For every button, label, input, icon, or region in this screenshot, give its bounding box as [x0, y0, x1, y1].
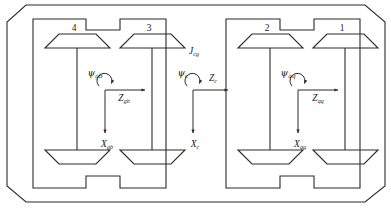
wheelset-1-lower-trapezoid [313, 150, 378, 164]
front-bogie-x-label: Xqq [293, 139, 306, 150]
wheelset-4-lower-trapezoid [45, 150, 110, 164]
rear-bogie-yaw-sub: gb [95, 72, 103, 80]
carbody-yaw-sub: c [185, 72, 189, 79]
rear-bogie-x-sub: gb [107, 144, 113, 150]
wheelset-2-lower-group [238, 150, 303, 164]
carbody-x-label: Xc [190, 139, 200, 150]
wheelset-3-lower-group [120, 150, 185, 164]
schematic-svg: 4 3 2 1 ψgb Zgb Xgb ψc Zc Xc ψqq Zqq [0, 0, 391, 208]
wheelset-4-lower-group [45, 150, 110, 164]
wheelset-2-group [238, 34, 303, 150]
wheelset-2-lower-trapezoid [238, 150, 303, 164]
front-bogie-z-sub: qq [318, 98, 324, 104]
carbody-z-label: Zc [209, 73, 217, 84]
wheelset-3-lower-trapezoid [120, 150, 185, 164]
wheelset-3-label: 3 [147, 23, 152, 33]
carbody-x-sub: c [197, 144, 200, 150]
wheelset-4-group [45, 34, 110, 150]
rear-bogie-outline [33, 19, 166, 188]
wheelset-1-group [313, 34, 378, 150]
front-bogie-yaw-sub: qq [288, 72, 296, 80]
coupling-label: Jcg [189, 46, 199, 57]
diagram-root: 4 3 2 1 ψgb Zgb Xgb ψc Zc Xc ψqq Zqq [0, 0, 391, 208]
rear-bogie-yaw-label: ψgb [87, 67, 102, 80]
wheelset-2-label: 2 [265, 23, 270, 33]
rear-bogie-z-sub: gb [124, 98, 130, 104]
wheelset-4-trapezoid [45, 34, 110, 48]
front-bogie-z-label: Zqq [312, 93, 323, 104]
carbody-coordinate-frame [185, 73, 228, 133]
wheelset-3-group [120, 34, 185, 150]
wheelset-1-trapezoid [313, 34, 378, 48]
rear-bogie-coordinate-frame [97, 73, 145, 133]
front-bogie-outline [226, 19, 360, 188]
front-bogie-x-sub: qq [300, 144, 306, 150]
wheelset-1-label: 1 [340, 23, 345, 33]
wheelset-3-trapezoid [120, 34, 185, 48]
carbody-z-sub: c [214, 78, 217, 84]
wheelset-4-label: 4 [72, 23, 77, 33]
carbody-yaw-label: ψc [178, 67, 189, 79]
coupling-sub: cg [193, 51, 199, 57]
rear-bogie-z-label: Zgb [118, 93, 129, 104]
wheelset-1-lower-group [313, 150, 378, 164]
wheelset-2-trapezoid [238, 34, 303, 48]
front-bogie-yaw-label: ψqq [280, 67, 295, 80]
rear-bogie-x-label: Xgb [100, 139, 113, 150]
front-bogie-coordinate-frame [290, 73, 338, 133]
